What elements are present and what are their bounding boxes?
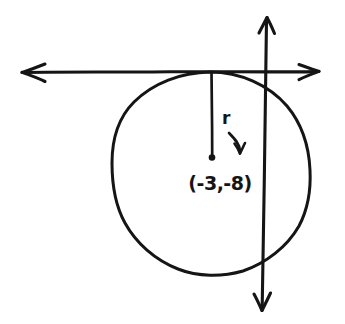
x-axis-line — [25, 72, 316, 73]
paper-background — [0, 0, 345, 324]
radius-line — [212, 72, 213, 156]
hand-drawn-diagram: r (-3,-8) — [0, 0, 345, 324]
center-coordinate-label: (-3,-8) — [188, 172, 251, 194]
center-dot — [209, 154, 216, 161]
center-coordinate-annotation: (-3,-8) — [188, 172, 251, 194]
sketch-figure: r (-3,-8) — [0, 0, 345, 324]
radius-label: r — [222, 108, 231, 128]
